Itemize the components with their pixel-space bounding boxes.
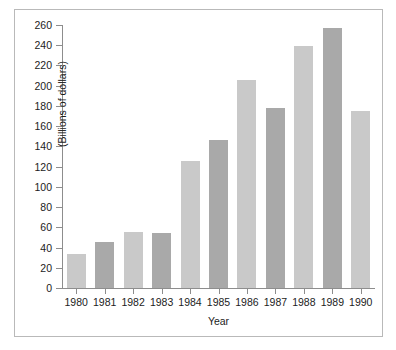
- y-axis-tick-label: 140: [0, 141, 52, 152]
- y-axis-title: (Billions of dollars): [56, 34, 68, 174]
- bar: [152, 233, 171, 288]
- x-axis-tick: [304, 289, 305, 294]
- y-axis-tick-label: 120: [0, 161, 52, 172]
- bar: [294, 46, 313, 288]
- y-axis-tick-label: 20: [0, 263, 52, 274]
- x-axis-tick: [219, 289, 220, 294]
- bar: [209, 140, 228, 288]
- y-axis-tick-label: 0: [0, 283, 52, 294]
- y-axis-tick-label: 80: [0, 202, 52, 213]
- y-axis-tick-label: 40: [0, 242, 52, 253]
- x-axis-tick: [133, 289, 134, 294]
- x-axis-tick: [247, 289, 248, 294]
- bar: [237, 80, 256, 288]
- y-axis-tick: [56, 288, 62, 289]
- y-axis-tick-label: 200: [0, 80, 52, 91]
- bar: [351, 111, 370, 288]
- bar: [266, 108, 285, 288]
- x-axis-tick: [190, 289, 191, 294]
- y-axis-tick-label: 160: [0, 121, 52, 132]
- y-axis-tick-label: 100: [0, 182, 52, 193]
- y-axis-tick-label: 220: [0, 60, 52, 71]
- bar: [181, 161, 200, 288]
- y-axis-tick-label: 240: [0, 40, 52, 51]
- x-axis-tick: [332, 289, 333, 294]
- x-axis-tick-label: 1990: [341, 297, 381, 308]
- y-axis-tick-label: 180: [0, 101, 52, 112]
- bar: [95, 242, 114, 288]
- bar: [323, 28, 342, 288]
- x-axis-tick: [162, 289, 163, 294]
- x-axis-tick: [361, 289, 362, 294]
- y-axis-tick-label: 260: [0, 20, 52, 31]
- x-axis-tick: [105, 289, 106, 294]
- bar: [67, 254, 86, 288]
- x-axis-tick: [275, 289, 276, 294]
- x-axis-title: Year: [62, 315, 375, 327]
- bar: [124, 232, 143, 288]
- x-axis-tick: [76, 289, 77, 294]
- chart-figure: 020406080100120140160180200220240260 198…: [0, 0, 396, 350]
- bars-container: [62, 25, 375, 288]
- y-axis-tick-label: 60: [0, 222, 52, 233]
